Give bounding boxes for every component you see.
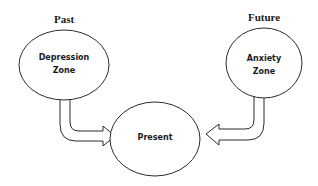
depression-zone-line2: Zone (24, 64, 104, 77)
depression-zone-text: Depression Zone (24, 51, 104, 77)
future-label: Future (241, 11, 287, 23)
anxiety-zone-text: Anxiety Zone (229, 52, 299, 78)
present-text: Present (115, 131, 195, 144)
arrow-anxiety-to-present (206, 96, 264, 145)
past-label: Past (44, 13, 84, 25)
anxiety-zone-line1: Anxiety (229, 52, 299, 65)
diagram-canvas (0, 0, 318, 186)
arrow-depression-to-present (60, 99, 115, 146)
depression-zone-line1: Depression (24, 51, 104, 64)
anxiety-zone-line2: Zone (229, 65, 299, 78)
